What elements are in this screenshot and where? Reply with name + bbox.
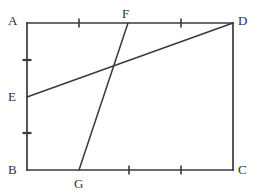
- vertex-label-A: A: [8, 14, 17, 27]
- tick-marks: [23, 19, 182, 175]
- vertex-label-F: F: [122, 7, 129, 20]
- rectangle-abcd: [27, 23, 233, 170]
- geometry-figure: A D B C E F G: [0, 0, 257, 196]
- vertex-label-C: C: [238, 163, 247, 176]
- interior-segments: [27, 23, 233, 170]
- vertex-label-E: E: [8, 90, 16, 103]
- segment-FG: [79, 23, 128, 170]
- figure-canvas: [0, 0, 257, 196]
- vertex-label-D: D: [238, 14, 247, 27]
- vertex-label-G: G: [74, 177, 83, 190]
- segment-ED: [27, 23, 233, 97]
- vertex-label-B: B: [8, 163, 17, 176]
